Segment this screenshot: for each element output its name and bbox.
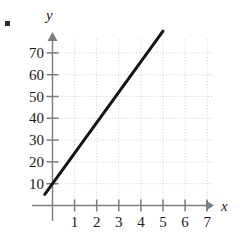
- data-series-group: [45, 31, 163, 194]
- y-tick-label: 40: [12, 111, 44, 126]
- gridlines-group: [55, 39, 213, 203]
- y-tick-label: 70: [12, 45, 44, 60]
- y-axis-label: y: [46, 8, 53, 23]
- line-graph-figure: 10203040506070 1234567 x y: [0, 0, 241, 247]
- x-tick-label: 1: [71, 215, 79, 230]
- x-tick-label: 7: [203, 215, 211, 230]
- y-tick-label: 60: [12, 67, 44, 82]
- x-tick-label: 4: [137, 215, 145, 230]
- tick-marks-group: [47, 53, 208, 212]
- axes-group: [32, 32, 214, 221]
- x-tick-label: 6: [181, 215, 189, 230]
- x-tick-label: 5: [159, 215, 167, 230]
- x-axis-label: x: [221, 199, 228, 214]
- x-tick-label: 2: [93, 215, 101, 230]
- y-tick-label: 30: [12, 133, 44, 148]
- y-tick-label: 20: [12, 154, 44, 169]
- y-tick-label: 10: [12, 176, 44, 191]
- y-tick-label: 50: [12, 89, 44, 104]
- data-line: [45, 31, 163, 194]
- y-axis-arrowhead: [48, 32, 58, 41]
- x-tick-label: 3: [115, 215, 123, 230]
